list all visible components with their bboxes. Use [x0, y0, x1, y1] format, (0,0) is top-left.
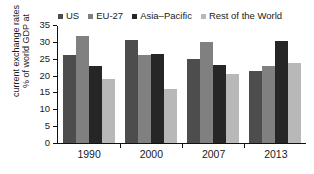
bar — [262, 66, 275, 143]
legend-label-eu27: EU-27 — [96, 11, 123, 21]
bar-group — [244, 26, 306, 143]
y-tick-label: 15 — [39, 86, 50, 97]
bar-group — [182, 26, 244, 143]
bar — [63, 55, 76, 143]
legend-swatch-us — [58, 14, 63, 19]
bar — [164, 89, 177, 143]
x-axis-label: 2000 — [120, 148, 182, 160]
bar — [76, 36, 89, 143]
y-axis-title-line-1: % of world GDP at — [21, 14, 31, 88]
bar — [249, 71, 262, 143]
y-tick-label: 20 — [39, 70, 50, 81]
y-tick: 10 — [53, 109, 57, 110]
y-tick: 25 — [53, 59, 57, 60]
y-tick-label: 25 — [39, 53, 50, 64]
y-axis-title: % of world GDP at current exchange rates — [6, 0, 36, 106]
bar — [151, 54, 164, 143]
y-tick-label: 35 — [39, 19, 50, 30]
legend-swatch-asia-pacific — [132, 14, 137, 19]
y-tick: 5 — [53, 126, 57, 127]
x-axis-label: 1990 — [58, 148, 120, 160]
bar — [226, 74, 239, 143]
legend-swatch-rest-of-world — [201, 14, 206, 19]
bar-groups — [58, 26, 306, 143]
y-tick-label: 10 — [39, 103, 50, 114]
plot-area: 05101520253035 — [57, 26, 306, 144]
legend-swatch-eu27 — [88, 14, 93, 19]
y-tick: 0 — [53, 143, 57, 144]
x-axis-label: 2007 — [183, 148, 245, 160]
bar — [187, 59, 200, 143]
bar — [138, 55, 151, 143]
legend-label-rest-of-world: Rest of the World — [209, 11, 282, 21]
legend-label-asia-pacific: Asia–Pacific — [140, 11, 192, 21]
bar — [102, 79, 115, 143]
x-axis-label: 2013 — [245, 148, 307, 160]
legend-item-eu27: EU-27 — [88, 11, 123, 21]
bar — [275, 41, 288, 143]
y-tick: 15 — [53, 92, 57, 93]
bar — [288, 63, 301, 143]
bar — [213, 65, 226, 143]
legend-item-rest-of-world: Rest of the World — [201, 11, 282, 21]
y-tick: 30 — [53, 42, 57, 43]
bar — [125, 40, 138, 143]
bar — [200, 42, 213, 143]
bar-group — [58, 26, 120, 143]
y-tick-label: 0 — [45, 137, 50, 148]
legend-item-us: US — [58, 11, 79, 21]
legend-label-us: US — [66, 11, 79, 21]
bar — [89, 66, 102, 143]
y-tick-label: 30 — [39, 36, 50, 47]
bar-chart: US EU-27 Asia–Pacific Rest of the World … — [0, 0, 314, 174]
x-axis-labels: 1990200020072013 — [58, 148, 307, 160]
legend-item-asia-pacific: Asia–Pacific — [132, 11, 192, 21]
y-tick: 20 — [53, 76, 57, 77]
bar-group — [120, 26, 182, 143]
chart-legend: US EU-27 Asia–Pacific Rest of the World — [58, 9, 310, 23]
y-tick-label: 5 — [45, 120, 50, 131]
y-tick: 35 — [53, 25, 57, 26]
y-axis-title-line-2: current exchange rates — [11, 5, 21, 97]
